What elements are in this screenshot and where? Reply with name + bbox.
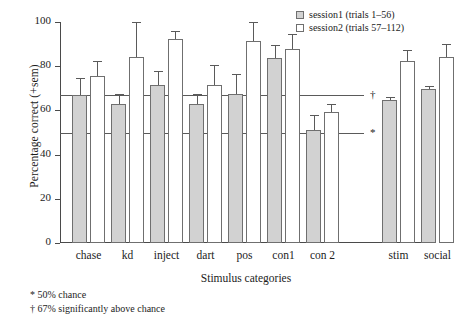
legend-label-session1: session1 (trials 1–56)	[309, 8, 395, 21]
bar-social-session1	[421, 89, 437, 243]
bar-chase-session2	[90, 76, 106, 243]
errorbar-cap-social-session2	[442, 44, 451, 45]
x-tick-label-con1: con1	[272, 249, 294, 261]
errorbar-cap-dart-session2	[210, 65, 219, 66]
x-tick-label-chase: chase	[76, 249, 102, 261]
x-tick-label-kd: kd	[122, 249, 134, 261]
errorbar-kd-session1	[119, 94, 120, 104]
errorbar-cap-dart-session1	[193, 94, 202, 95]
legend-item-session2: session2 (trials 57–112)	[296, 21, 404, 34]
errorbar-cap-stim-session1	[386, 97, 395, 98]
legend-swatch-session2	[296, 24, 304, 32]
y-tick-label-60: 60	[40, 102, 51, 114]
errorbar-cap-pos-session2	[249, 22, 258, 23]
footnote-chance: * 50% chance	[30, 288, 165, 302]
bar-stim-session2	[400, 61, 416, 243]
bar-dart-session2	[207, 85, 223, 243]
plot-area: 020406080100 †* chasekdinjectdartposcon1…	[60, 22, 432, 243]
x-tick-label-pos: pos	[237, 249, 253, 261]
y-tick-80: 80	[55, 66, 60, 67]
y-tick-label-80: 80	[40, 58, 51, 70]
errorbar-cap-pos-session1	[232, 74, 241, 75]
errorbar-cap-chase-session2	[93, 61, 102, 62]
errorbar-pos-session1	[236, 74, 237, 94]
x-tick-label-stim: stim	[389, 249, 409, 261]
bar-inject-session1	[150, 85, 166, 243]
bar-social-session2	[439, 57, 454, 243]
errorbar-chase-session1	[80, 78, 81, 95]
errorbar-dart-session2	[214, 65, 215, 85]
y-tick-0: 0	[55, 243, 60, 244]
errorbar-cap-stim-session2	[403, 50, 412, 51]
errorbar-con-2-session2	[331, 104, 332, 112]
y-tick-label-0: 0	[46, 235, 52, 247]
bar-con-2-session1	[306, 130, 322, 243]
legend-item-session1: session1 (trials 1–56)	[296, 8, 404, 21]
bar-inject-session2	[168, 39, 184, 243]
y-axis-title: Percentage correct (+sem)	[28, 26, 40, 226]
errorbar-con1-session1	[275, 45, 276, 58]
bar-con1-session2	[285, 49, 301, 243]
bar-stim-session1	[382, 100, 398, 243]
errorbar-dart-session1	[197, 94, 198, 104]
errorbar-cap-inject-session2	[171, 31, 180, 32]
footnote-significance: † 67% significantly above chance	[30, 302, 165, 316]
errorbar-pos-session2	[253, 22, 254, 41]
x-tick-label-con-2: con 2	[310, 249, 335, 261]
bar-pos-session1	[228, 94, 244, 243]
errorbar-cap-kd-session2	[132, 22, 141, 23]
errorbar-social-session2	[446, 44, 447, 57]
y-tick-40: 40	[55, 155, 60, 156]
errorbar-inject-session2	[175, 31, 176, 39]
bar-con1-session1	[267, 58, 283, 243]
x-tick-label-inject: inject	[154, 249, 180, 261]
bar-kd-session1	[111, 104, 127, 243]
x-axis-title: Stimulus categories	[60, 272, 432, 284]
reference-mark-67: †	[370, 89, 376, 100]
errorbar-con-2-session1	[314, 115, 315, 130]
errorbar-cap-con1-session2	[288, 34, 297, 35]
bar-dart-session1	[189, 104, 205, 243]
errorbar-con1-session2	[292, 34, 293, 48]
errorbar-cap-chase-session1	[76, 78, 85, 79]
errorbar-cap-kd-session1	[115, 94, 124, 95]
y-tick-label-100: 100	[35, 14, 52, 26]
bar-con-2-session2	[324, 112, 340, 243]
y-tick-100: 100	[55, 22, 60, 23]
errorbar-cap-con1-session1	[271, 45, 280, 46]
y-tick-label-20: 20	[40, 191, 51, 203]
reference-mark-50: *	[370, 127, 376, 138]
errorbar-stim-session2	[407, 50, 408, 61]
errorbar-cap-con-2-session2	[327, 104, 336, 105]
errorbar-cap-social-session1	[425, 86, 434, 87]
x-tick-label-dart: dart	[197, 249, 215, 261]
legend-swatch-session1	[296, 11, 304, 19]
y-tick-label-40: 40	[40, 147, 51, 159]
bar-pos-session2	[246, 41, 262, 243]
errorbar-cap-inject-session1	[154, 71, 163, 72]
errorbar-chase-session2	[97, 61, 98, 76]
y-tick-60: 60	[55, 110, 60, 111]
legend: session1 (trials 1–56) session2 (trials …	[296, 8, 404, 34]
errorbar-cap-con-2-session1	[310, 115, 319, 116]
x-tick-label-social: social	[424, 249, 451, 261]
legend-label-session2: session2 (trials 57–112)	[309, 21, 404, 34]
footnotes: * 50% chance † 67% significantly above c…	[30, 288, 165, 316]
errorbar-inject-session1	[158, 71, 159, 85]
bar-kd-session2	[129, 57, 145, 243]
bar-chase-session1	[72, 95, 88, 243]
errorbar-kd-session2	[136, 22, 137, 57]
y-tick-20: 20	[55, 199, 60, 200]
